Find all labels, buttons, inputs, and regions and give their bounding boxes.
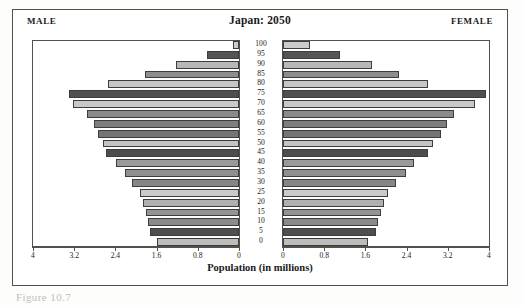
bar-male-age-20 (143, 199, 239, 207)
age-tick-0: 0 (240, 237, 282, 245)
bar-female-age-95 (283, 51, 340, 59)
table-row (283, 238, 489, 246)
table-row (283, 179, 489, 187)
figure-caption: Figure 10.7 (16, 291, 71, 303)
x-tick-label: 0.8 (319, 251, 329, 260)
table-row (33, 159, 239, 167)
table-row (33, 80, 239, 88)
table-row (283, 169, 489, 177)
x-axis-male: 00.81.62.43.24 (32, 247, 240, 263)
bar-male-age-0 (157, 238, 239, 246)
bar-male-age-40 (116, 159, 239, 167)
bar-male-age-55 (98, 130, 239, 138)
table-row (283, 90, 489, 98)
x-axis-line (282, 247, 490, 248)
table-row (283, 149, 489, 157)
bar-male-age-30 (132, 179, 239, 187)
bar-male-age-80 (108, 80, 239, 88)
table-row (33, 140, 239, 148)
bar-male-age-90 (176, 61, 239, 69)
table-row (283, 209, 489, 217)
age-tick-50: 50 (240, 139, 282, 147)
table-row (33, 71, 239, 79)
table-row (33, 110, 239, 118)
x-tick-label: 3.2 (69, 251, 79, 260)
female-bars-panel (282, 40, 490, 247)
table-row (33, 228, 239, 236)
table-row (33, 218, 239, 226)
x-tick-label: 1.6 (361, 251, 371, 260)
x-tick-label: 0 (281, 251, 285, 260)
age-tick-80: 80 (240, 79, 282, 87)
x-tick-label: 0 (237, 251, 241, 260)
bar-female-age-100 (283, 41, 310, 49)
table-row (33, 189, 239, 197)
table-row (283, 80, 489, 88)
age-tick-75: 75 (240, 89, 282, 97)
age-tick-15: 15 (240, 208, 282, 216)
table-row (33, 209, 239, 217)
table-row (33, 100, 239, 108)
table-row (33, 149, 239, 157)
x-axis-title: Population (in millions) (13, 262, 507, 273)
age-tick-90: 90 (240, 60, 282, 68)
x-tick-label: 4 (31, 251, 35, 260)
bar-male-age-10 (148, 218, 239, 226)
bar-female-age-30 (283, 179, 396, 187)
x-tick-label: 1.6 (152, 251, 162, 260)
bar-female-age-60 (283, 120, 447, 128)
table-row (283, 199, 489, 207)
table-row (283, 100, 489, 108)
bar-female-age-35 (283, 169, 406, 177)
bar-female-age-90 (283, 61, 372, 69)
x-tick-label: 4 (487, 251, 491, 260)
table-row (33, 41, 239, 49)
table-row (283, 159, 489, 167)
x-tick-label: 2.4 (111, 251, 121, 260)
bar-male-age-50 (103, 140, 239, 148)
table-row (283, 110, 489, 118)
x-axis-line (32, 247, 240, 248)
bar-female-age-85 (283, 71, 399, 79)
age-tick-30: 30 (240, 178, 282, 186)
bar-male-age-85 (145, 71, 239, 79)
bar-female-age-25 (283, 189, 388, 197)
bar-female-age-20 (283, 199, 384, 207)
bar-male-age-60 (94, 120, 239, 128)
table-row (33, 199, 239, 207)
age-tick-35: 35 (240, 168, 282, 176)
age-tick-25: 25 (240, 188, 282, 196)
table-row (33, 169, 239, 177)
bar-female-age-40 (283, 159, 414, 167)
age-tick-100: 100 (240, 40, 282, 48)
bar-female-age-5 (283, 228, 376, 236)
table-row (283, 71, 489, 79)
table-row (283, 140, 489, 148)
x-axis-female: 00.81.62.43.24 (282, 247, 490, 263)
table-row (33, 120, 239, 128)
male-bars-panel (32, 40, 240, 247)
bar-male-age-95 (207, 51, 239, 59)
age-tick-10: 10 (240, 217, 282, 225)
age-tick-45: 45 (240, 148, 282, 156)
chart-title: Japan: 2050 (13, 14, 507, 26)
table-row (33, 238, 239, 246)
age-tick-65: 65 (240, 109, 282, 117)
age-tick-95: 95 (240, 50, 282, 58)
female-axis-label: FEMALE (451, 16, 493, 26)
table-row (283, 189, 489, 197)
table-row (283, 51, 489, 59)
age-tick-20: 20 (240, 198, 282, 206)
table-row (283, 41, 489, 49)
bar-male-age-25 (140, 189, 239, 197)
bar-male-age-35 (125, 169, 239, 177)
bar-female-age-0 (283, 238, 368, 246)
bar-male-age-75 (69, 90, 239, 98)
age-tick-85: 85 (240, 70, 282, 78)
age-tick-5: 5 (240, 227, 282, 235)
bar-female-age-10 (283, 218, 378, 226)
bar-female-age-80 (283, 80, 428, 88)
table-row (283, 228, 489, 236)
bar-male-age-5 (150, 228, 239, 236)
table-row (33, 51, 239, 59)
